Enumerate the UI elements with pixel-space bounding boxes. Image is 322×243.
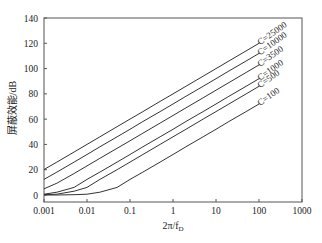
y-tick-label: 120 [24,39,39,49]
x-tick-label: 100 [252,206,267,216]
x-tick-label: 10 [211,206,221,216]
y-tick-label: 100 [24,64,39,74]
x-tick-label: 0.1 [124,206,136,216]
y-tick-label: 0 [33,191,38,201]
shielding-effectiveness-chart: 020406080100120140 0.0010.010.1110100100… [0,0,322,243]
series-line-c-3500 [44,65,259,189]
x-axis-label-main: 2π/f [162,220,179,231]
y-axis-label: 屏蔽效能/dB [6,80,18,135]
x-axis-label: 2π/fD [162,220,183,233]
y-tick-label: 60 [29,115,39,125]
x-tick-label: 1000 [293,206,312,216]
y-tick-label: 20 [29,165,39,175]
y-tick-label: 140 [24,14,39,24]
series-line-c-500 [44,86,259,194]
y-tick-label: 80 [29,89,39,99]
x-tick-label: 0.01 [79,206,96,216]
x-axis-label-subscript: D [179,225,184,233]
series-labels: C=25000C=10000C=3500C=1000C=500C=100 [255,19,289,107]
x-tick-label: 1 [171,206,176,216]
y-tick-label: 40 [29,140,39,150]
series-line-c-25000 [44,43,259,169]
series-lines [44,43,259,195]
x-tick-label: 0.001 [33,206,55,216]
series-line-c-10000 [44,53,259,179]
series-line-c-1000 [44,79,259,195]
